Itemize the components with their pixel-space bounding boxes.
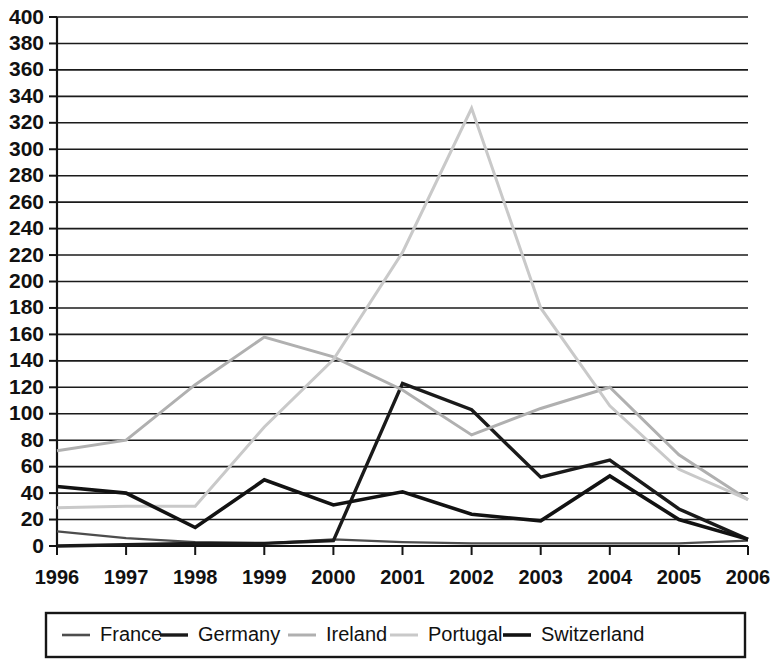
legend-label-ireland: Ireland — [326, 623, 387, 645]
y-tick-label: 220 — [9, 243, 44, 266]
legend-label-france: France — [100, 623, 162, 645]
y-tick-label: 380 — [9, 31, 44, 54]
x-tick-label: 2006 — [726, 566, 771, 588]
y-tick-label: 280 — [9, 163, 44, 186]
series-line-germany — [57, 383, 748, 546]
chart-canvas: 0204060801001201401601802002202402602803… — [0, 0, 781, 662]
x-tick-label: 1998 — [173, 566, 218, 588]
y-axis-tick-marks — [49, 17, 57, 546]
y-tick-label: 240 — [9, 216, 44, 239]
y-gridlines — [57, 17, 748, 546]
y-tick-label: 20 — [21, 507, 44, 530]
y-tick-label: 100 — [9, 401, 44, 424]
legend-label-switzerland: Switzerland — [541, 623, 644, 645]
y-tick-label: 120 — [9, 375, 44, 398]
x-tick-label: 2005 — [657, 566, 702, 588]
y-tick-label: 320 — [9, 110, 44, 133]
legend-label-portugal: Portugal — [428, 623, 503, 645]
legend-label-germany: Germany — [198, 623, 280, 645]
y-tick-label: 80 — [21, 428, 44, 451]
chart-legend: FranceGermanyIrelandPortugalSwitzerland — [46, 613, 745, 657]
y-tick-label: 160 — [9, 322, 44, 345]
y-tick-label: 200 — [9, 269, 44, 292]
y-tick-label: 400 — [9, 5, 44, 28]
y-tick-label: 300 — [9, 137, 44, 160]
y-axis-tick-labels: 0204060801001201401601802002202402602803… — [9, 5, 44, 557]
x-tick-label: 1996 — [35, 566, 80, 588]
x-tick-label: 2001 — [380, 566, 425, 588]
x-tick-label: 2003 — [518, 566, 563, 588]
x-tick-label: 2002 — [449, 566, 494, 588]
line-chart: 0204060801001201401601802002202402602803… — [0, 0, 781, 662]
x-axis-tick-marks — [57, 546, 748, 555]
x-tick-label: 2000 — [311, 566, 356, 588]
y-tick-label: 40 — [21, 481, 44, 504]
y-tick-label: 140 — [9, 348, 44, 371]
y-tick-label: 60 — [21, 454, 44, 477]
series-line-france — [57, 531, 748, 543]
x-tick-label: 1999 — [242, 566, 287, 588]
x-axis-tick-labels: 1996199719981999200020012002200320042005… — [35, 566, 771, 588]
x-tick-label: 1997 — [104, 566, 149, 588]
y-tick-label: 360 — [9, 57, 44, 80]
data-series-group — [57, 108, 748, 546]
x-tick-label: 2004 — [588, 566, 633, 588]
y-tick-label: 340 — [9, 84, 44, 107]
y-tick-label: 260 — [9, 190, 44, 213]
y-tick-label: 0 — [32, 534, 44, 557]
y-tick-label: 180 — [9, 295, 44, 318]
